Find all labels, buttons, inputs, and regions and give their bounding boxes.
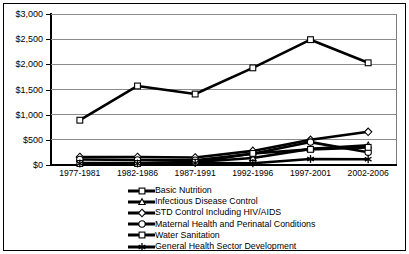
- legend-label: General Health Sector Development: [155, 241, 296, 252]
- legend-item: Maternal Health and Perinatal Conditions: [128, 219, 368, 230]
- y-axis-tick-label: $0: [33, 161, 43, 170]
- legend-item: General Health Sector Development: [128, 241, 368, 252]
- legend-label: Basic Nutrition: [155, 185, 212, 196]
- legend-marker-icon: [128, 219, 155, 230]
- x-axis-tick-label: 1987-1991: [175, 168, 216, 178]
- legend-marker-icon: [128, 230, 155, 241]
- series-layer: [51, 14, 397, 165]
- legend-item: STD Control Including HIV/AIDS: [128, 207, 368, 218]
- y-axis-tick-label: $3,000: [15, 10, 43, 19]
- y-axis-tick-label: $1,500: [15, 85, 43, 94]
- y-axis-tick-label: $2,500: [15, 35, 43, 44]
- legend-item: Water Sanitation: [128, 230, 368, 241]
- y-axis-labels: $0$500$1,000$1,500$2,000$2,500$3,000: [0, 0, 49, 170]
- legend-marker-icon: [128, 185, 155, 196]
- legend-marker-glyph: [135, 207, 148, 218]
- legend-marker-glyph: [135, 241, 148, 252]
- y-axis-tick-label: $1,000: [15, 110, 43, 119]
- chart-screenshot: $0$500$1,000$1,500$2,000$2,500$3,000 197…: [0, 0, 409, 254]
- legend-marker-icon: [128, 241, 155, 252]
- x-axis-tick-label: 1997-2001: [290, 168, 331, 178]
- y-axis-tick-label: $2,000: [15, 60, 43, 69]
- legend-label: Water Sanitation: [155, 230, 220, 241]
- legend-item: Infectious Disease Control: [128, 196, 368, 207]
- legend-marker-icon: [128, 196, 155, 207]
- legend-marker-icon: [128, 207, 155, 218]
- legend-marker-glyph: [135, 196, 148, 207]
- plot-area: [51, 14, 397, 165]
- x-axis-tick-label: 1982-1986: [117, 168, 158, 178]
- y-axis-tick-label: $500: [23, 135, 43, 144]
- legend-label: STD Control Including HIV/AIDS: [155, 207, 281, 218]
- x-axis-tick-label: 1977-1981: [59, 168, 100, 178]
- legend-marker-glyph: [135, 219, 148, 230]
- x-axis-tick-label: 2002-2006: [348, 168, 389, 178]
- legend-marker-glyph: [135, 230, 148, 241]
- x-axis-labels: 1977-19811982-19861987-19911992-19961997…: [51, 168, 397, 182]
- chart-legend: Basic NutritionInfectious Disease Contro…: [128, 185, 368, 252]
- x-axis-tick-label: 1992-1996: [232, 168, 273, 178]
- legend-label: Infectious Disease Control: [155, 196, 258, 207]
- legend-item: Basic Nutrition: [128, 185, 368, 196]
- legend-marker-glyph: [135, 185, 148, 196]
- legend-label: Maternal Health and Perinatal Conditions: [155, 219, 315, 230]
